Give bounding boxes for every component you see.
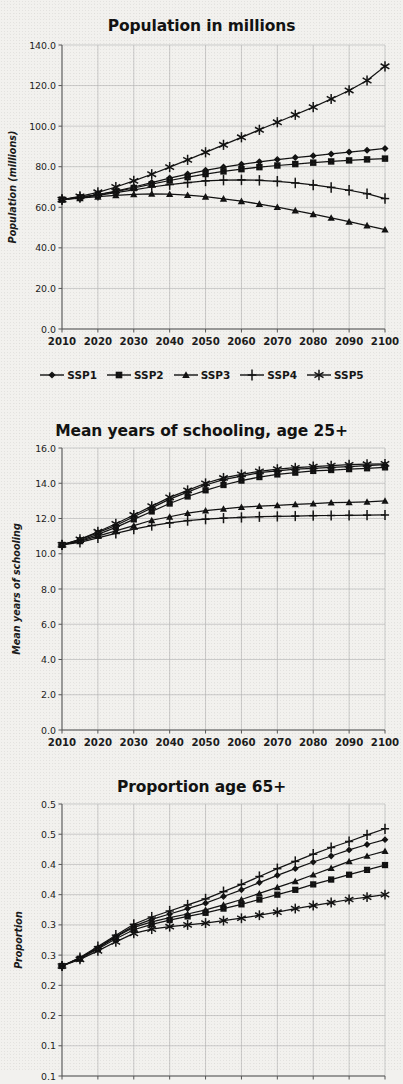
series-legend: SSP1SSP2SSP3SSP4SSP5	[0, 358, 403, 392]
svg-schooling-y-axis-label: Mean years of schooling	[11, 523, 22, 655]
svg-population-marker-ssp4	[327, 182, 335, 193]
legend-entry-ssp1[interactable]: SSP1	[39, 368, 97, 382]
svg-proportion-marker-ssp2	[364, 867, 370, 873]
svg-text:0.0: 0.0	[41, 324, 56, 335]
svg-text:2020: 2020	[84, 336, 112, 347]
svg-population-marker-ssp4	[345, 185, 353, 196]
svg-text:2030: 2030	[120, 336, 148, 347]
svg-population-marker-ssp5	[237, 132, 246, 142]
svg-schooling-marker-ssp4	[327, 510, 335, 520]
svg-schooling-y-tick-labels: 0.02.04.06.08.010.012.014.016.0	[35, 443, 62, 736]
svg-text:6.0: 6.0	[41, 619, 56, 630]
svg-population-marker-ssp5	[345, 85, 354, 95]
svg-population-marker-ssp4	[219, 175, 227, 186]
svg-schooling-gridlines	[62, 448, 385, 730]
svg-text:10.0: 10.0	[35, 548, 56, 559]
plus-glyph	[248, 370, 257, 381]
svg-text:2040: 2040	[155, 737, 183, 748]
svg-text:2100: 2100	[371, 336, 399, 347]
svg-text:16.0: 16.0	[35, 443, 56, 454]
svg-population-x-tick-labels: 2010202020302040205020602070208020902100	[48, 329, 399, 347]
svg-text:2070: 2070	[263, 737, 291, 748]
legend-entry-ssp4[interactable]: SSP4	[239, 368, 297, 382]
svg-text:12.0: 12.0	[35, 513, 56, 524]
svg-text:8.0: 8.0	[41, 584, 56, 595]
svg-population-marker-ssp4	[201, 176, 209, 187]
svg-population-axes	[62, 45, 385, 329]
population-chart-panel: Population in millions 0.020.040.060.080…	[0, 0, 403, 355]
svg-proportion-marker-ssp2	[292, 887, 298, 893]
svg-text:14.0: 14.0	[35, 478, 56, 489]
svg-population-marker-ssp2	[274, 162, 280, 168]
svg-population-marker-ssp2	[238, 166, 244, 172]
legend-label-ssp3: SSP3	[201, 370, 231, 381]
svg-proportion-marker-ssp4	[327, 842, 335, 852]
svg-text:120.0: 120.0	[29, 80, 56, 91]
diamond-marker-icon	[39, 368, 65, 382]
svg-population-marker-ssp5	[309, 102, 318, 112]
svg-population-marker-ssp5	[201, 147, 210, 157]
svg-population-series-ssp3	[58, 190, 388, 232]
svg-text:2030: 2030	[120, 737, 148, 748]
legend-entry-ssp3[interactable]: SSP3	[173, 368, 231, 382]
legend-label-ssp4: SSP4	[267, 370, 297, 381]
svg-population-marker-ssp5	[219, 140, 228, 150]
svg-text:0.2: 0.2	[41, 1010, 56, 1021]
legend-label-ssp5: SSP5	[334, 370, 364, 381]
svg-text:2100: 2100	[371, 737, 399, 748]
svg-population-marker-ssp4	[273, 176, 281, 187]
asterisk-marker-icon	[306, 368, 332, 382]
svg-text:40.0: 40.0	[35, 242, 56, 253]
svg-proportion-marker-ssp1	[328, 853, 335, 860]
svg-text:0.2: 0.2	[41, 980, 56, 991]
svg-proportion-marker-ssp2	[274, 892, 280, 898]
svg-text:0.0: 0.0	[41, 725, 56, 736]
svg-population-marker-ssp2	[382, 155, 388, 161]
legend-label-ssp2: SSP2	[134, 370, 164, 381]
svg-population-marker-ssp5	[381, 61, 390, 71]
diamond-glyph	[49, 371, 56, 378]
svg-population-marker-ssp4	[381, 193, 389, 204]
svg-proportion-marker-ssp2	[382, 862, 388, 868]
svg-text:0.4: 0.4	[41, 859, 56, 870]
plus-marker-icon	[239, 368, 265, 382]
svg-proportion-marker-ssp3	[381, 848, 388, 854]
svg-population-marker-ssp1	[328, 150, 335, 157]
svg-text:0.1: 0.1	[41, 1040, 56, 1051]
svg-text:2090: 2090	[335, 336, 363, 347]
svg-schooling-marker-ssp4	[130, 524, 138, 534]
svg-schooling-marker-ssp4	[291, 511, 299, 521]
svg-text:0.3: 0.3	[41, 950, 56, 961]
svg-proportion-marker-ssp4	[255, 871, 263, 881]
svg-schooling-marker-ssp4	[273, 511, 281, 521]
svg-text:140.0: 140.0	[29, 40, 56, 51]
svg-schooling-marker-ssp4	[237, 512, 245, 522]
legend-entry-ssp2[interactable]: SSP2	[106, 368, 164, 382]
svg-text:2070: 2070	[263, 336, 291, 347]
svg-population-marker-ssp4	[291, 178, 299, 189]
legend-label-ssp1: SSP1	[67, 370, 97, 381]
svg-text:2020: 2020	[84, 737, 112, 748]
population-plot-area: 0.020.040.060.080.0100.0120.0140.0201020…	[0, 35, 403, 355]
proportion-plot-svg: 0.50.50.40.40.30.30.20.20.10.1Proportion	[0, 796, 403, 1084]
svg-population-marker-ssp1	[364, 147, 371, 154]
svg-text:0.5: 0.5	[41, 829, 56, 840]
triangle-marker-icon	[173, 368, 199, 382]
svg-text:0.4: 0.4	[41, 889, 56, 900]
svg-text:20.0: 20.0	[35, 283, 56, 294]
svg-proportion-marker-ssp2	[256, 896, 262, 902]
svg-population-marker-ssp2	[220, 168, 226, 174]
svg-schooling-marker-ssp4	[345, 510, 353, 520]
svg-text:2010: 2010	[48, 336, 76, 347]
legend-entry-ssp5[interactable]: SSP5	[306, 368, 364, 382]
svg-population-marker-ssp2	[256, 164, 262, 170]
svg-proportion-marker-ssp2	[328, 876, 334, 882]
svg-proportion-marker-ssp4	[291, 856, 299, 866]
svg-population-marker-ssp5	[183, 155, 192, 165]
svg-schooling-marker-ssp4	[309, 511, 317, 521]
svg-text:80.0: 80.0	[35, 161, 56, 172]
svg-proportion-series-ssp2	[59, 862, 388, 969]
population-plot-svg: 0.020.040.060.080.0100.0120.0140.0201020…	[0, 35, 403, 355]
svg-population-gridlines	[62, 45, 385, 329]
schooling-plot-area: 0.02.04.06.08.010.012.014.016.0201020202…	[0, 440, 403, 758]
